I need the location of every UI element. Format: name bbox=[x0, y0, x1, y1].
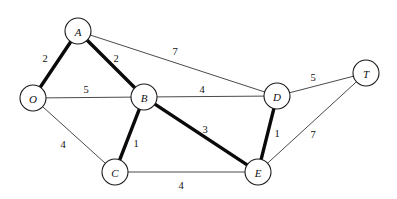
edge-weight-label-o-b: 5 bbox=[83, 84, 88, 95]
graph-edge-d-e bbox=[261, 109, 274, 160]
graph-edge-b-c bbox=[120, 109, 140, 160]
graph-node-o[interactable]: O bbox=[20, 85, 46, 111]
edge-weight-label-o-a: 2 bbox=[42, 53, 47, 64]
edge-weight-label-d-t: 5 bbox=[310, 72, 315, 83]
edge-weight-label-o-c: 4 bbox=[60, 139, 66, 150]
graph-node-e[interactable]: E bbox=[245, 159, 271, 185]
edge-weight-label-a-d: 7 bbox=[172, 46, 177, 57]
graph-edge-a-d bbox=[90, 35, 264, 92]
edge-weight-label-t-e: 7 bbox=[310, 129, 315, 140]
graph-node-a[interactable]: A bbox=[65, 18, 91, 44]
node-label-t: T bbox=[363, 68, 370, 80]
graph-edge-o-a bbox=[40, 42, 71, 87]
graph-node-d[interactable]: D bbox=[264, 83, 290, 109]
node-label-c: C bbox=[111, 167, 119, 179]
graph-edge-b-e bbox=[155, 104, 247, 165]
edges-layer bbox=[40, 35, 356, 172]
nodes-layer: AOBDTCE bbox=[20, 18, 379, 185]
edge-weight-label-a-b: 2 bbox=[113, 53, 118, 64]
graph-edge-d-t bbox=[290, 76, 354, 92]
graph-edge-b-d bbox=[157, 96, 264, 97]
node-label-d: D bbox=[272, 91, 281, 103]
graph-node-t[interactable]: T bbox=[353, 60, 379, 86]
node-label-o: O bbox=[29, 93, 37, 105]
node-label-e: E bbox=[254, 167, 262, 179]
graph-edge-o-c bbox=[43, 107, 106, 164]
graph-edge-o-b bbox=[46, 97, 131, 98]
graph-diagram: AOBDTCE 227545413174 bbox=[0, 0, 397, 199]
edge-weight-label-b-c: 1 bbox=[133, 138, 138, 149]
edge-weight-label-d-e: 1 bbox=[274, 128, 279, 139]
edge-weight-label-b-e: 3 bbox=[202, 124, 207, 135]
edge-weight-label-c-e: 4 bbox=[178, 180, 184, 191]
graph-node-b[interactable]: B bbox=[131, 84, 157, 110]
graph-node-c[interactable]: C bbox=[102, 159, 128, 185]
edge-weight-label-b-d: 4 bbox=[199, 84, 205, 95]
node-label-b: B bbox=[141, 92, 148, 104]
node-label-a: A bbox=[74, 26, 82, 38]
graph-canvas: AOBDTCE 227545413174 bbox=[0, 0, 397, 199]
